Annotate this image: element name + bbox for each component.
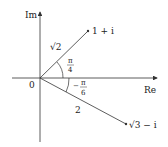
point-label-1-plus-i: 1 + i (92, 26, 114, 36)
origin-label: 0 (29, 80, 35, 90)
angle-denominator-6: 6 (81, 89, 86, 97)
point-label-sqrt3-minus-i: √3 − i (129, 120, 157, 130)
angle-numerator-pi-6: π (81, 79, 86, 87)
imag-axis-label: Im (25, 10, 38, 20)
angle-arc-pi-4 (57, 62, 63, 78)
point-1-plus-i (87, 30, 89, 32)
complex-plane-diagram: Im Re 0 1 + i √2 π 4 − π 6 2 √3 − i (0, 0, 168, 147)
point-sqrt3-minus-i (125, 123, 127, 125)
angle-sign-minus: − (73, 82, 79, 90)
modulus-label-sqrt2: √2 (50, 42, 61, 52)
angle-numerator-pi-4: π (68, 57, 73, 65)
real-axis-label: Re (144, 85, 156, 95)
angle-arc-pi-6 (66, 78, 69, 92)
modulus-label-2: 2 (75, 105, 81, 115)
angle-denominator-4: 4 (68, 66, 73, 74)
vector-1-plus-i (40, 31, 88, 78)
